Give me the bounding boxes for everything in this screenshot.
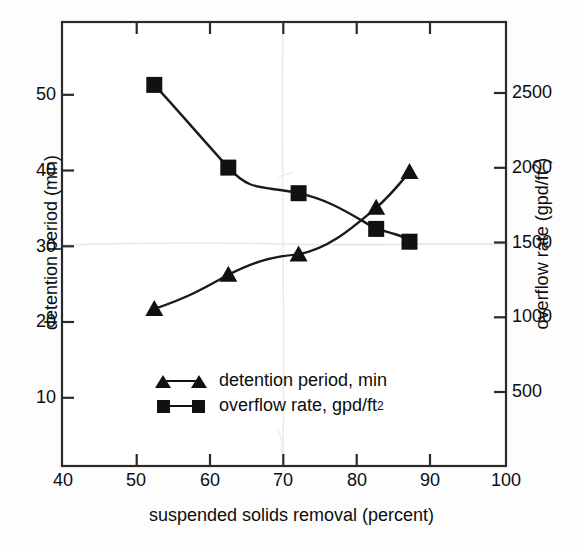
y-axis-left-title: detention period (min) [41, 93, 62, 393]
x-tick-90: 90 [405, 470, 455, 491]
legend-item-overflow-rate: overflow rate, gpd/ft2 [155, 393, 387, 418]
x-tick-50: 50 [111, 470, 161, 491]
legend-item-detention-period: detention period, min [155, 368, 387, 393]
y-axis-right-title-close: ) [532, 158, 552, 164]
chart-figure: 50 40 30 20 10 2500 2000 1500 1000 500 4… [0, 0, 583, 546]
y-axis-right-title-exponent: 2 [530, 164, 544, 171]
chart-legend: detention period, min overflow rate, gpd… [155, 368, 387, 418]
x-axis-title: suspended solids removal (percent) [0, 505, 583, 526]
x-tick-80: 80 [332, 470, 382, 491]
legend-marker-triangle-icon [155, 372, 207, 390]
x-tick-40: 40 [38, 470, 88, 491]
legend-label-detention-period: detention period, min [219, 370, 387, 391]
y-axis-right-title-text: overflow rate (gpd/ft [532, 170, 552, 329]
legend-label-overflow-rate: overflow rate, gpd/ft [219, 395, 377, 416]
legend-label-overflow-rate-exponent: 2 [377, 399, 384, 413]
x-tick-60: 60 [185, 470, 235, 491]
x-tick-70: 70 [258, 470, 308, 491]
y-axis-right-title: overflow rate (gpd/ft2) [530, 94, 553, 394]
chart-canvas [0, 0, 583, 546]
legend-marker-square-icon [155, 397, 207, 415]
x-tick-100: 100 [481, 470, 531, 491]
